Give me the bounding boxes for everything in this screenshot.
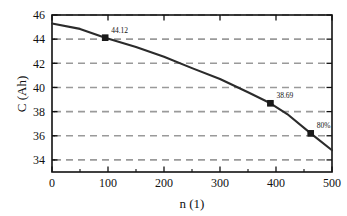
data-point-marker bbox=[102, 35, 108, 41]
y-tick-label: 34 bbox=[33, 153, 45, 167]
x-tick-label: 300 bbox=[211, 176, 229, 190]
y-axis-title: C (Ah) bbox=[14, 76, 29, 112]
x-tick-label: 200 bbox=[155, 176, 173, 190]
capacity-fade-line-chart: 34363840424446 0100200300400500 44.1238.… bbox=[0, 0, 347, 216]
data-point-label: 38.69 bbox=[276, 91, 293, 100]
data-point-marker bbox=[308, 131, 314, 137]
y-tick-label: 46 bbox=[33, 8, 45, 22]
x-tick-label: 100 bbox=[99, 176, 117, 190]
y-tick-label: 36 bbox=[33, 129, 45, 143]
data-point-label: 80% bbox=[317, 121, 331, 130]
x-tick-label: 0 bbox=[49, 176, 55, 190]
y-tick-label: 40 bbox=[33, 81, 45, 95]
y-tick-label: 44 bbox=[33, 32, 45, 46]
data-point-label: 44.12 bbox=[111, 26, 128, 35]
y-tick-label: 42 bbox=[33, 57, 45, 71]
x-axis-tick-labels: 0100200300400500 bbox=[49, 176, 341, 190]
y-tick-label: 38 bbox=[33, 105, 45, 119]
data-point-marker bbox=[268, 100, 274, 106]
y-axis-tick-labels: 34363840424446 bbox=[33, 8, 45, 167]
x-axis-title: n (1) bbox=[180, 196, 205, 211]
chart-figure: 34363840424446 0100200300400500 44.1238.… bbox=[0, 0, 347, 216]
x-tick-label: 500 bbox=[323, 176, 341, 190]
x-tick-label: 400 bbox=[267, 176, 285, 190]
